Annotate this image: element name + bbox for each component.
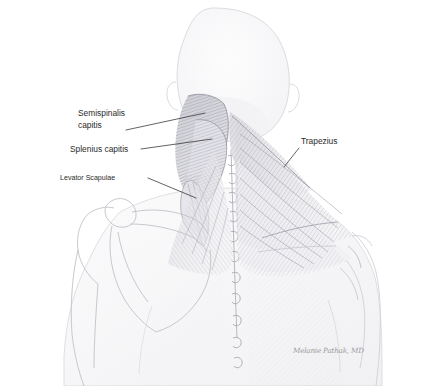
artist-signature: Melanie Pathak, MD [292, 346, 364, 355]
label-levator-scapulae-text: Levator Scapulae [60, 174, 115, 182]
anatomical-illustration: Semispinalis capitis Splenius capitis Le… [0, 0, 444, 386]
label-splenius-capitis-text: Splenius capitis [70, 144, 128, 154]
label-trapezius[interactable]: Trapezius [284, 136, 337, 167]
ear-left [167, 82, 178, 110]
label-trapezius-text: Trapezius [301, 136, 337, 146]
ear-right [288, 84, 299, 112]
leader-line-trapezius [284, 148, 299, 167]
label-semispinalis-capitis-line1: Semispinalis [78, 108, 125, 118]
label-semispinalis-capitis-line2: capitis [78, 120, 102, 130]
trapezius-right [225, 110, 365, 285]
illustration-canvas: Semispinalis capitis Splenius capitis Le… [0, 0, 444, 386]
